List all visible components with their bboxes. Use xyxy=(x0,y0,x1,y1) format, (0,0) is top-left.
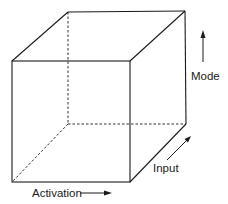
activation-axis-arrow xyxy=(80,191,112,196)
edge-back-right-vertical xyxy=(185,11,186,124)
input-axis-label: Input xyxy=(153,162,179,174)
mode-axis-label: Mode xyxy=(191,70,220,82)
activation-axis-label: Activation xyxy=(32,187,82,199)
cube-diagram: Mode Input Activation xyxy=(0,0,228,204)
edge-top-left-depth xyxy=(12,12,68,61)
mode-axis-arrow xyxy=(201,30,206,62)
hidden-edge-bottom-left-depth xyxy=(12,124,68,182)
edge-top-right-depth xyxy=(130,11,185,61)
edge-back-top xyxy=(68,11,185,12)
